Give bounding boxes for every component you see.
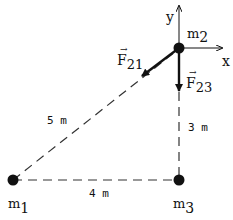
mass-m1-label: m1 <box>8 196 29 216</box>
mass-m2-label: m2 <box>187 26 208 45</box>
svg-text:F21: F21 <box>117 52 143 72</box>
force-label-f23: → F23 <box>186 67 212 95</box>
mass-m3-dot <box>174 175 185 186</box>
force-label-f21: → F21 <box>117 44 143 72</box>
y-axis-label: y <box>165 9 174 25</box>
mass-m2-dot <box>174 43 185 54</box>
mass-m3-label: m3 <box>173 196 194 216</box>
mass-m1-dot <box>8 175 19 186</box>
svg-text:F23: F23 <box>186 75 212 95</box>
distance-label-hypotenuse: 5 m <box>47 114 67 127</box>
distance-label-horizontal: 4 m <box>89 187 109 200</box>
x-axis-label: x <box>222 53 230 69</box>
dashed-line-hypotenuse <box>13 52 175 180</box>
force-diagram: y x m2 m1 m3 → F21 → F23 5 m 3 m 4 m <box>0 0 233 220</box>
force-arrow-f21 <box>142 48 179 76</box>
distance-label-vertical: 3 m <box>188 121 208 134</box>
